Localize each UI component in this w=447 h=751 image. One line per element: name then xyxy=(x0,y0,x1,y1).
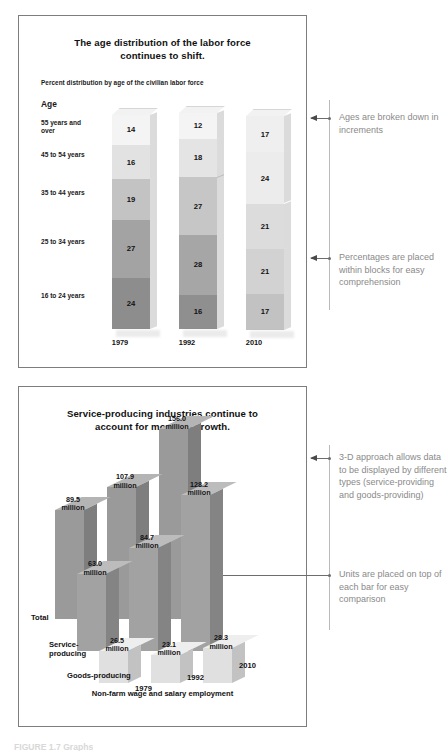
annotation-dot-ages xyxy=(328,117,331,120)
stack-segment-value: 18 xyxy=(194,153,202,162)
industry-series-label: Goods-producing xyxy=(67,671,131,680)
stacked-bar-2010: 1724212117 xyxy=(246,116,284,330)
age-title-line-2: continues to shift. xyxy=(19,50,306,63)
bar-shadow xyxy=(183,330,227,337)
stack-segment: 17 xyxy=(246,294,284,330)
stack-segment: 28 xyxy=(179,235,217,295)
bar-front-face xyxy=(203,648,232,683)
age-axis-label: Age xyxy=(41,99,57,109)
age-row-label: 25 to 34 years xyxy=(41,238,107,246)
industry-year-label: 1979 xyxy=(135,684,152,693)
bar-value-line: million xyxy=(146,649,192,657)
stack-segment: 21 xyxy=(246,249,284,294)
stack-segment-value: 17 xyxy=(261,307,269,316)
stack-segment-value: 27 xyxy=(194,202,202,211)
bar-front-face xyxy=(181,495,210,651)
bar-value-label: 128.2million xyxy=(176,481,222,498)
age-year-label: 1992 xyxy=(161,338,213,347)
age-row-label-line: 45 to 54 years xyxy=(41,151,107,159)
stack-segment: 16 xyxy=(179,295,217,329)
stack-segment-value: 12 xyxy=(194,121,202,130)
industry-series-label-line: Service- xyxy=(49,640,86,649)
stack-segment: 18 xyxy=(179,139,217,178)
stack-segment: 24 xyxy=(246,152,284,203)
bar-value-label: 84.7million xyxy=(124,534,170,551)
annotation-ages-broken-down: Ages are broken down in increments xyxy=(339,111,447,136)
stack-segment: 16 xyxy=(112,145,150,179)
bar-value-line: million xyxy=(50,504,96,512)
bar-side-face xyxy=(158,541,171,651)
stack-segment-value: 21 xyxy=(261,222,269,231)
stack-segment: 14 xyxy=(112,115,150,145)
industry-series-label-line: Total xyxy=(31,613,49,622)
bar-shadow xyxy=(250,331,294,338)
stacked-bar-1992: 1218272816 xyxy=(179,113,217,329)
age-row-label-line: over xyxy=(41,127,107,135)
figure-caption: FIGURE 1.7 Graphs xyxy=(14,742,93,751)
annotation-3d-approach: 3-D approach allows data to be displayed… xyxy=(339,451,447,501)
stack-segment: 24 xyxy=(112,278,150,329)
age-distribution-panel: The age distribution of the labor force … xyxy=(18,15,307,368)
annotation-arrow-percentages xyxy=(311,258,329,259)
bar-3d xyxy=(181,482,223,651)
industry-series-label: Service-producing xyxy=(49,640,86,658)
annotation-dot-units xyxy=(328,574,331,577)
bar-value-line: million xyxy=(72,569,118,577)
stack-segment-value: 27 xyxy=(127,244,135,253)
industry-employment-panel: Service-producing industries continue to… xyxy=(18,386,307,727)
stacked-bar-1979: 1416192724 xyxy=(112,115,150,329)
stack-segment: 27 xyxy=(179,177,217,235)
bar-value-line: million xyxy=(154,423,200,431)
bar-value-label: 156.0million xyxy=(154,415,200,432)
industry-series-label-line: producing xyxy=(49,649,86,658)
age-row-label: 35 to 44 years xyxy=(41,189,107,197)
age-row-label: 16 to 24 years xyxy=(41,292,107,300)
age-row-label-line: 35 to 44 years xyxy=(41,189,107,197)
stack-segment-value: 24 xyxy=(261,174,269,183)
stack-segment: 27 xyxy=(112,220,150,278)
bar-value-label: 28.3million xyxy=(198,634,244,651)
industry-year-label: 2010 xyxy=(239,661,256,670)
age-panel-subtitle: Percent distribution by age of the civil… xyxy=(41,79,204,86)
industry-panel-footer: Non-farm wage and salary employment xyxy=(19,689,306,698)
stack-segment: 19 xyxy=(112,179,150,220)
stack-segment-value: 21 xyxy=(261,267,269,276)
stack-segment-value: 14 xyxy=(127,125,135,134)
age-year-label: 1979 xyxy=(94,338,146,347)
annotation-arrow-3d xyxy=(311,458,329,459)
bar-value-line: million xyxy=(94,645,140,653)
stack-segment-value: 16 xyxy=(194,307,202,316)
annotation-rail-top xyxy=(329,100,330,310)
stack-segment: 21 xyxy=(246,204,284,249)
bar-value-line: million xyxy=(198,643,244,651)
age-row-label-line: 25 to 34 years xyxy=(41,238,107,246)
annotation-arrow-ages xyxy=(311,118,329,119)
age-row-label-line: 55 years and xyxy=(41,119,107,127)
age-title-line-1: The age distribution of the labor force xyxy=(19,37,306,50)
bar-value-label: 63.0million xyxy=(72,560,118,577)
bar-value-line: million xyxy=(124,542,170,550)
bar-shadow xyxy=(116,330,160,337)
bar-value-label: 107.9million xyxy=(102,473,148,490)
stack-segment-value: 17 xyxy=(261,130,269,139)
bar-value-label: 89.5million xyxy=(50,496,96,513)
stack-segment: 17 xyxy=(246,116,284,152)
bar-front-face xyxy=(129,548,158,651)
age-panel-title: The age distribution of the labor force … xyxy=(19,37,306,62)
industry-series-label-line: Goods-producing xyxy=(67,671,131,680)
industry-3d-chart: 89.5million107.9million156.0million63.0m… xyxy=(19,387,308,728)
bar-front-face xyxy=(151,655,180,683)
age-row-label: 45 to 54 years xyxy=(41,151,107,159)
industry-year-label: 1992 xyxy=(187,673,204,682)
industry-series-label: Total xyxy=(31,613,49,622)
bar-3d xyxy=(129,535,171,651)
age-year-label: 2010 xyxy=(228,338,280,347)
annotation-dot-percentages xyxy=(328,257,331,260)
stack-segment-value: 28 xyxy=(194,260,202,269)
stack-segment-value: 24 xyxy=(127,299,135,308)
stack-segment: 12 xyxy=(179,113,217,139)
bar-value-line: million xyxy=(176,489,222,497)
bar-value-label: 23.1million xyxy=(146,641,192,658)
bar-value-line: million xyxy=(102,482,148,490)
annotation-percentages-in-blocks: Percentages are placed within blocks for… xyxy=(339,251,447,289)
